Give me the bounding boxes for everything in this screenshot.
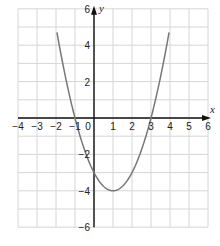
- y-tick-label: 6: [84, 4, 90, 15]
- x-tick-label: −2: [50, 121, 62, 132]
- x-tick-label: 0: [85, 121, 91, 132]
- y-tick-label: 2: [84, 77, 90, 88]
- x-tick-label: 6: [205, 121, 211, 132]
- x-tick-label: 3: [148, 121, 154, 132]
- x-tick-label: 1: [110, 121, 116, 132]
- y-tick-label: 4: [84, 40, 90, 51]
- x-axis-label: x: [209, 103, 215, 115]
- x-tick-label: 5: [186, 121, 192, 132]
- x-tick-label: 4: [167, 121, 173, 132]
- y-axis-arrow-icon: [91, 6, 97, 15]
- x-tick-label: −1: [69, 121, 81, 132]
- x-tick-label: −3: [31, 121, 43, 132]
- x-tick-label: 2: [129, 121, 135, 132]
- x-tick-label: −4: [12, 121, 24, 132]
- y-tick-label: −4: [79, 186, 91, 197]
- y-tick-label: −2: [79, 149, 91, 160]
- y-axis-label: y: [98, 2, 104, 14]
- y-tick-label: −6: [79, 222, 91, 233]
- parabola-chart: −4−3−2−10123456642−2−4−6xy: [0, 0, 220, 246]
